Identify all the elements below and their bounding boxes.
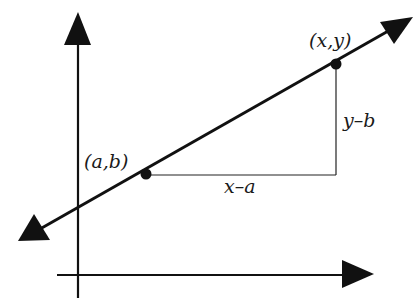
slope-triangle [146, 64, 336, 175]
point-ab [141, 169, 152, 180]
slope-diagram: (x,y) y–b (a,b) x–a [0, 0, 414, 307]
label-rise: y–b [342, 109, 375, 131]
y-axis-arrow-icon [64, 12, 91, 45]
x-axis-arrow-icon [342, 260, 374, 288]
label-point-ab: (a,b) [84, 150, 128, 172]
x-axis [57, 260, 374, 288]
line-arrow-upper-right-icon [380, 17, 413, 44]
label-run: x–a [224, 175, 256, 197]
label-point-xy: (x,y) [309, 29, 351, 51]
point-xy [331, 59, 342, 70]
